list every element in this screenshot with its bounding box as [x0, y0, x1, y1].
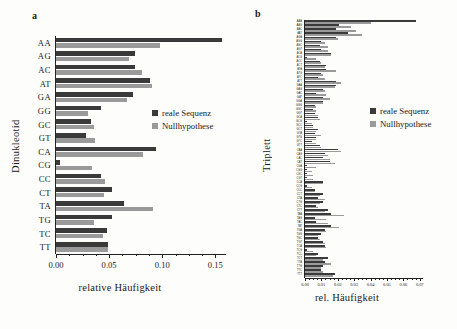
x-tick-minor: [412, 278, 413, 280]
bar-row: AC: [56, 63, 226, 77]
x-tick-minor: [407, 278, 408, 280]
panel-b-x-axis-line: [305, 278, 423, 279]
x-tick-minor: [149, 254, 150, 256]
category-label: AC: [38, 65, 51, 75]
bar-row: CT: [56, 186, 226, 200]
category-label: TTT: [297, 274, 302, 277]
category-label: CG: [38, 160, 51, 170]
x-tick-label: 0.04: [367, 282, 375, 287]
bar-row: AA: [56, 36, 226, 50]
bar-null-hypothesis: [56, 234, 103, 239]
bar-row: CC: [56, 172, 226, 186]
x-tick-label: 0.00: [48, 260, 63, 270]
x-tick-label: 0.02: [334, 282, 342, 287]
panel-a: a Dinukleotid AAAGACATGAGGGCGTCACGCCCTTA…: [0, 0, 240, 329]
category-label: TA: [39, 201, 51, 211]
x-tick-minor: [366, 278, 367, 280]
x-tick-minor: [189, 254, 190, 256]
bar-null-hypothesis: [56, 220, 94, 225]
x-tick: [321, 278, 322, 281]
x-tick: [354, 278, 355, 281]
x-tick: [215, 254, 216, 258]
legend-item-null: Nullhypothese: [370, 119, 431, 129]
legend-label-real: reale Sequenz: [380, 106, 429, 116]
x-tick: [403, 278, 404, 281]
x-tick-minor: [383, 278, 384, 280]
panel-a-bar-rows: AAAGACATGAGGGCGTCACGCCCTTATGTCTT: [56, 36, 226, 254]
x-tick-minor: [136, 254, 137, 256]
bar-null-hypothesis: [56, 111, 88, 116]
x-tick-minor: [202, 254, 203, 256]
x-tick-minor: [342, 278, 343, 280]
x-tick-minor: [69, 254, 70, 256]
panel-a-x-axis-label: relative Häufigkeit: [0, 282, 240, 293]
x-tick-minor: [330, 278, 331, 280]
panel-a-legend: reale Sequenz Nullhypothese: [152, 108, 213, 134]
bar-row: AT: [56, 77, 226, 91]
bar-null-hypothesis: [56, 138, 95, 143]
x-tick: [109, 254, 110, 258]
bar-real-sequence: [56, 92, 133, 97]
x-tick: [305, 278, 306, 281]
bar-null-hypothesis: [56, 247, 108, 252]
panel-b: b Triplett AAAAAGAACAATAGAAGGAGCAGTACAAC…: [237, 0, 457, 329]
category-label: AA: [38, 38, 51, 48]
x-tick-minor: [122, 254, 123, 256]
bar-real-sequence: [56, 228, 107, 233]
x-tick-minor: [317, 278, 318, 280]
bar-null-hypothesis: [305, 275, 333, 276]
x-tick-minor: [83, 254, 84, 256]
bar-row: TG: [56, 213, 226, 227]
bar-real-sequence: [56, 187, 112, 192]
x-tick-minor: [395, 278, 396, 280]
bar-null-hypothesis: [56, 166, 92, 171]
category-label: TT: [40, 242, 51, 252]
panel-b-x-axis-label: rel. Häufigkeit: [237, 292, 457, 303]
x-tick-label: 0.03: [350, 282, 358, 287]
legend-item-real: reale Sequenz: [370, 106, 431, 116]
bar-row: AG: [56, 50, 226, 64]
x-tick-minor: [309, 278, 310, 280]
x-tick-minor: [416, 278, 417, 280]
bar-null-hypothesis: [56, 125, 94, 130]
x-tick-minor: [325, 278, 326, 280]
legend-item-real: reale Sequenz: [152, 108, 213, 118]
category-label: GG: [38, 106, 51, 116]
bar-row: TTT: [305, 273, 423, 277]
category-label: TC: [39, 229, 51, 239]
x-tick-minor: [399, 278, 400, 280]
panel-a-letter: a: [32, 10, 37, 21]
x-tick: [338, 278, 339, 281]
x-tick-minor: [176, 254, 177, 256]
x-tick-label: 0.00: [301, 282, 309, 287]
bar-real-sequence: [56, 201, 124, 206]
bar-row: GA: [56, 91, 226, 105]
panel-a-plot-area: AAAGACATGAGGGCGTCACGCCCTTATGTCTT 0.000.0…: [56, 36, 226, 254]
x-tick: [371, 278, 372, 281]
category-label: GA: [38, 92, 51, 102]
panel-a-y-axis-label: Dinukleotid: [10, 96, 21, 196]
legend-label-real: reale Sequenz: [162, 108, 211, 118]
bar-null-hypothesis: [56, 179, 105, 184]
bar-row: TC: [56, 227, 226, 241]
category-label: TG: [39, 215, 51, 225]
bar-real-sequence: [56, 106, 101, 111]
x-tick-minor: [379, 278, 380, 280]
bar-row: TA: [56, 200, 226, 214]
x-tick-minor: [350, 278, 351, 280]
x-tick-label: 0.15: [208, 260, 223, 270]
figure-root: a Dinukleotid AAAGACATGAGGGCGTCACGCCCTTA…: [0, 0, 457, 329]
bar-real-sequence: [56, 242, 108, 247]
x-tick: [420, 278, 421, 281]
x-tick: [162, 254, 163, 258]
bar-null-hypothesis: [56, 98, 127, 103]
category-label: AT: [40, 79, 51, 89]
bar-real-sequence: [56, 38, 222, 43]
bar-null-hypothesis: [56, 57, 129, 62]
x-tick-label: 0.01: [318, 282, 326, 287]
panel-b-plot-area: AAAAAGAACAATAGAAGGAGCAGTACAACGACCACTATAA…: [305, 20, 423, 278]
x-tick: [387, 278, 388, 281]
legend-label-null: Nullhypothese: [162, 121, 213, 131]
panel-b-legend: reale Sequenz Nullhypothese: [370, 106, 431, 132]
x-tick-label: 0.06: [399, 282, 407, 287]
